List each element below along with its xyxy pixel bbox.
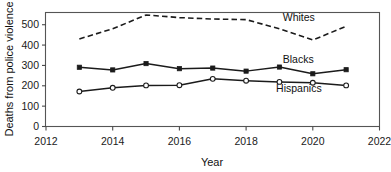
marker-hispanics (144, 83, 149, 88)
marker-hispanics (177, 83, 182, 88)
marker-hispanics (244, 78, 249, 83)
y-tick-label: 400 (21, 39, 39, 51)
marker-blacks (177, 67, 181, 71)
marker-blacks (344, 68, 348, 72)
x-tick-label: 2020 (301, 135, 325, 147)
x-axis-ticks: 201220142016201820202022 (34, 127, 391, 147)
y-axis-label: Deaths from police violence (3, 1, 15, 136)
x-tick-label: 2018 (234, 135, 258, 147)
marker-blacks (211, 66, 215, 70)
y-tick-label: 200 (21, 79, 39, 91)
marker-blacks (311, 72, 315, 76)
y-tick-label: 500 (21, 18, 39, 30)
x-tick-label: 2016 (168, 135, 192, 147)
series-label-whites: Whites (283, 11, 315, 23)
marker-blacks (144, 61, 148, 65)
y-tick-label: 0 (33, 120, 39, 132)
x-tick-label: 2022 (368, 135, 391, 147)
marker-hispanics (77, 89, 82, 94)
line-chart: 0100200300400500 20122014201620182020202… (0, 0, 391, 172)
series-inline-labels: WhitesBlacksHispanics (276, 11, 322, 95)
marker-hispanics (344, 83, 349, 88)
y-tick-label: 300 (21, 59, 39, 71)
series-label-hispanics: Hispanics (276, 82, 322, 94)
y-axis-ticks: 0100200300400500 (21, 18, 46, 132)
x-tick-label: 2012 (34, 135, 58, 147)
marker-blacks (244, 69, 248, 73)
marker-blacks (77, 65, 81, 69)
marker-blacks (277, 65, 281, 69)
marker-hispanics (110, 85, 115, 90)
series-label-blacks: Blacks (283, 53, 314, 65)
x-axis-label: Year (201, 156, 224, 168)
y-tick-label: 100 (21, 100, 39, 112)
marker-hispanics (210, 76, 215, 81)
x-tick-label: 2014 (101, 135, 125, 147)
marker-blacks (111, 68, 115, 72)
